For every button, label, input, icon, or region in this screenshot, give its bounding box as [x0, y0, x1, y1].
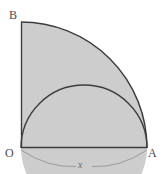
vertex-label-B: B	[9, 9, 17, 21]
geometry-figure: B O A x	[0, 0, 167, 174]
figure-canvas	[0, 0, 167, 174]
vertex-label-O: O	[5, 147, 14, 159]
dimension-label-x: x	[78, 160, 82, 170]
vertex-label-A: A	[148, 147, 157, 159]
shaded-region	[21, 22, 147, 174]
